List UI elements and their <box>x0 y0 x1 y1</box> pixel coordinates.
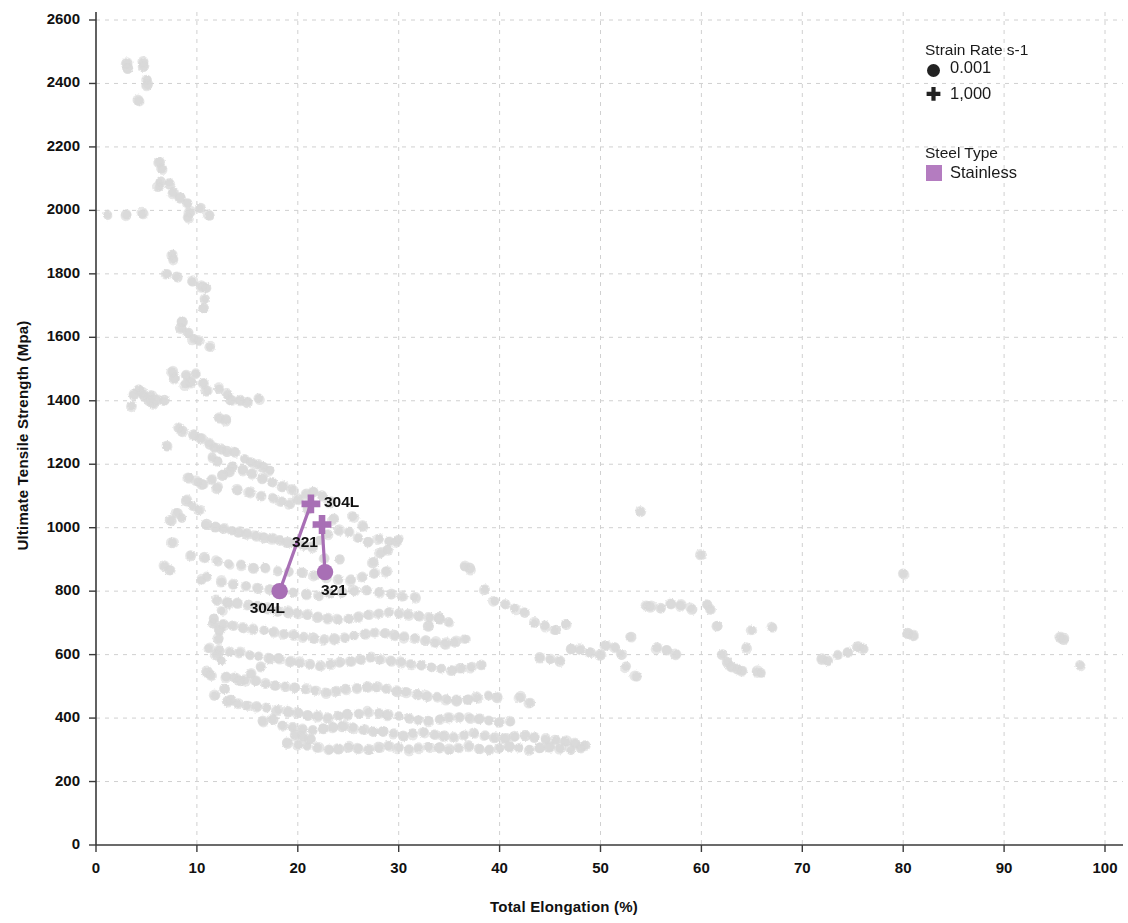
data-point-background <box>463 740 474 752</box>
data-point-background <box>479 584 490 595</box>
data-point-background <box>374 587 385 598</box>
data-point-background <box>514 743 523 753</box>
data-point-background <box>347 511 360 523</box>
data-point-background <box>352 611 363 623</box>
data-point-background <box>357 520 368 532</box>
y-axis-tick-label: 1600 <box>20 327 80 344</box>
data-point-background <box>200 293 211 304</box>
data-point-background <box>362 681 373 693</box>
data-point-background <box>270 680 281 690</box>
data-point-background <box>440 637 452 649</box>
data-point-background <box>166 537 179 548</box>
data-point-background <box>585 647 596 658</box>
data-point-background <box>363 609 375 620</box>
legend-entry-steel-type-0: Stainless <box>950 163 1017 182</box>
data-point-background <box>352 743 364 755</box>
y-axis-tick-label: 400 <box>20 708 80 725</box>
y-axis-tick-label: 2000 <box>20 200 80 217</box>
data-point-background <box>823 655 833 666</box>
data-point-background <box>220 414 231 427</box>
data-point-background <box>234 646 246 658</box>
data-point-background <box>423 742 436 753</box>
data-point-background <box>500 599 511 609</box>
data-point-background <box>258 715 269 727</box>
data-point-background <box>453 743 464 754</box>
data-point-background <box>382 709 393 721</box>
data-point-background <box>474 743 485 754</box>
legend-title-strain-rate: Strain Rate s-1 <box>925 41 1028 59</box>
data-point-background <box>253 393 264 405</box>
y-axis-tick-label: 2400 <box>20 73 80 90</box>
data-point-background <box>524 745 535 756</box>
data-point-background <box>273 566 282 577</box>
data-point-background <box>254 652 263 662</box>
x-axis-tick-label: 90 <box>974 859 1034 876</box>
data-point-background <box>304 659 315 670</box>
data-point-background <box>103 210 112 221</box>
data-point-background <box>520 730 531 741</box>
data-point-background <box>193 335 204 346</box>
data-point-background <box>549 625 561 635</box>
y-axis-tick-label: 1200 <box>20 454 80 471</box>
data-point-background <box>651 642 663 655</box>
data-point-background <box>746 625 757 635</box>
data-point-background <box>159 395 170 406</box>
data-point-background <box>404 744 415 756</box>
data-point-background <box>319 634 330 646</box>
x-axis-tick-label: 20 <box>268 859 328 876</box>
data-point-background <box>389 728 399 739</box>
data-point-background <box>179 379 190 391</box>
data-point-background <box>407 728 418 740</box>
data-point-background <box>335 554 345 564</box>
data-point-label: 304L <box>250 599 285 617</box>
y-axis-tick-label: 800 <box>20 581 80 598</box>
data-point-background <box>418 727 430 739</box>
data-point-background <box>209 690 220 701</box>
x-axis-tick-label: 40 <box>470 859 530 876</box>
data-point-background <box>398 730 409 741</box>
data-point-background <box>369 568 380 579</box>
data-point-background <box>297 567 308 578</box>
data-point-background <box>206 670 217 681</box>
data-point-background <box>161 269 173 279</box>
data-point-background <box>252 583 263 594</box>
y-axis-tick-label: 2200 <box>20 137 80 154</box>
data-point-background <box>453 712 464 723</box>
data-point-background <box>474 713 485 724</box>
x-axis-tick-label: 50 <box>571 859 631 876</box>
data-point-background <box>198 303 209 314</box>
data-point-background <box>315 660 326 671</box>
data-point-background <box>510 604 522 616</box>
data-point-background <box>298 632 309 643</box>
data-point-background <box>561 619 571 630</box>
axis-frame <box>89 12 1123 852</box>
data-point-background <box>832 650 842 660</box>
data-point-background <box>136 207 148 220</box>
legend-cross-marker-icon <box>924 85 943 104</box>
data-point-background <box>257 473 268 485</box>
plot-canvas <box>0 0 1128 923</box>
data-point-background <box>685 602 697 615</box>
data-point-background <box>323 712 334 724</box>
data-point-background <box>670 648 682 660</box>
data-point-background <box>256 491 267 502</box>
data-point-background <box>843 647 854 657</box>
y-axis-tick-label: 1400 <box>20 391 80 408</box>
data-point-background <box>423 716 434 727</box>
data-point-background <box>200 385 212 397</box>
legend-entry-strain-rate-1: 1,000 <box>950 84 991 103</box>
data-point-background <box>625 632 637 643</box>
data-point-background <box>327 722 338 733</box>
data-point-background <box>554 656 565 668</box>
data-point-background <box>444 743 455 755</box>
data-point-background <box>705 604 716 615</box>
data-point-background <box>132 95 144 107</box>
data-point-background <box>378 726 389 737</box>
data-point-background <box>381 566 393 578</box>
data-point-background <box>397 590 408 601</box>
data-point-background <box>340 684 351 696</box>
data-point-background <box>301 683 313 694</box>
data-point-background <box>451 694 462 706</box>
data-point-background <box>416 660 427 671</box>
data-point-background <box>260 678 271 689</box>
